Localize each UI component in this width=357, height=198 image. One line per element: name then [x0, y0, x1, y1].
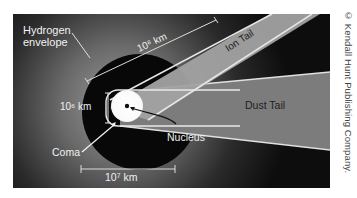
label-scale-1e7: 10⁷ km	[105, 171, 138, 183]
comet-diagram: Hydrogen envelope 10⁸ km Ion Tail Dust T…	[0, 0, 357, 198]
label-hydrogen-envelope-2: envelope	[23, 36, 68, 48]
nucleus	[125, 104, 129, 108]
label-nucleus: Nucleus	[167, 131, 205, 143]
label-coma: Coma	[52, 146, 80, 158]
label-dust-tail: Dust Tail	[245, 99, 285, 111]
label-hydrogen-envelope-1: Hydrogen	[23, 24, 71, 36]
label-scale-1e6: 10⁶ km	[60, 101, 91, 112]
copyright-credit: © Kendall Hunt Publishing Company.	[338, 10, 354, 190]
